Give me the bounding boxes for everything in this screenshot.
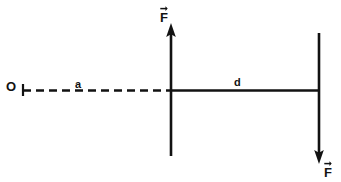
origin-label: O [6, 80, 16, 93]
force-down-label-stack: F [324, 166, 332, 179]
vector-arrow-icon [160, 5, 168, 11]
force-down-label-text: F [324, 165, 332, 180]
segment-d-label: d [234, 77, 241, 88]
segment-a-label: a [75, 79, 81, 90]
force-down-label: F [324, 166, 332, 179]
vector-arrow-icon [324, 160, 332, 166]
force-diagram-canvas [0, 0, 341, 182]
force-up-label: F [160, 11, 168, 24]
force-up-label-text: F [160, 10, 168, 25]
force-diagram-figure: O a d F F [0, 0, 341, 182]
force-up-label-stack: F [160, 11, 168, 24]
